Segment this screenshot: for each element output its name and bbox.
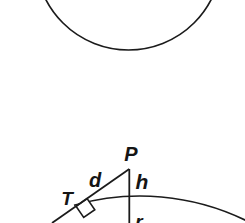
label-segment-h: h (136, 170, 149, 193)
lower-circle-arc (74, 196, 245, 220)
diagram-canvas: P d h T r (0, 0, 245, 223)
geometry-diagram: P d h T r (0, 0, 245, 223)
label-segment-r: r (135, 211, 144, 223)
upper-circle-arc (36, 0, 222, 50)
label-segment-d: d (89, 169, 102, 191)
label-point-t: T (61, 188, 74, 209)
label-point-p: P (124, 143, 138, 165)
